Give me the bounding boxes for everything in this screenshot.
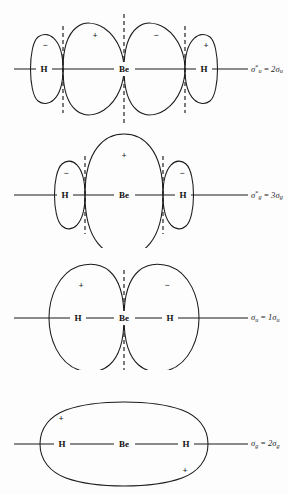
atom-label-h-left: H [61, 190, 68, 200]
orbital-row-sigma-g: H Be H + + σg = 2σg [0, 392, 288, 494]
atom-label-h-right: H [182, 439, 189, 449]
orbital-label-sub: g [255, 442, 258, 449]
orbital-row-sigma-u-star: H Be H − + − + σ*u = 2σu [0, 0, 288, 125]
lobe-sign-2: + [92, 30, 97, 40]
lobe-sign-2: + [182, 465, 187, 475]
orbital-row-sigma-u: H Be H + − σu = 1σu [0, 252, 288, 370]
orbital-label-sub: u [259, 67, 262, 74]
orbital-row-sigma-g-star: H Be H − + − σ*g = 3σg [0, 128, 288, 248]
atom-label-be: Be [119, 439, 129, 449]
lobe-sign-1: + [58, 413, 63, 423]
orbital-label-value: 2σ [271, 64, 280, 74]
orbital-drawing-sigma-g-star: H Be H − + − [0, 128, 288, 248]
atom-label-h-right: H [179, 190, 186, 200]
orbital-label-value-sub: u [280, 67, 283, 74]
orbital-label-value-sub: u [277, 316, 280, 323]
orbital-label-sigma-g-star: σ*g = 3σg [251, 189, 283, 200]
mo-diagram-figure: H Be H − + − + σ*u = 2σu [0, 0, 288, 494]
lobe-left-large [49, 264, 124, 370]
orbital-label-equals: = [261, 438, 266, 448]
atom-label-be: Be [119, 64, 129, 74]
atom-label-h-right: H [200, 64, 207, 74]
lobe-sign-3: − [153, 30, 158, 40]
orbital-label-sub: u [255, 316, 258, 323]
orbital-label-equals: = [264, 64, 269, 74]
orbital-label-value: 1σ [268, 312, 277, 322]
atom-label-h-right: H [166, 313, 173, 323]
orbital-drawing-sigma-u-star: H Be H − + − + [0, 0, 288, 125]
orbital-label-sub: g [259, 193, 262, 200]
atom-label-be: Be [119, 190, 129, 200]
orbital-label-sigma-u: σu = 1σu [251, 312, 280, 323]
atom-label-h-left: H [40, 64, 47, 74]
atom-label-h-left: H [58, 439, 65, 449]
orbital-label-equals: = [264, 190, 269, 200]
orbital-label-sigma-g: σg = 2σg [251, 438, 280, 449]
lobe-sign-2: + [121, 150, 126, 160]
orbital-label-value: 2σ [268, 438, 277, 448]
orbital-drawing-sigma-u: H Be H + − [0, 252, 288, 370]
lobe-sign-3: − [179, 168, 184, 178]
orbital-label-value-sub: g [277, 442, 280, 449]
lobe-sign-2: − [164, 280, 169, 290]
orbital-label-value-sub: g [280, 193, 283, 200]
lobe-right-large [124, 264, 199, 370]
orbital-label-equals: = [261, 312, 266, 322]
atom-label-be: Be [119, 313, 129, 323]
lobe-sign-1: + [78, 280, 83, 290]
orbital-label-sigma-u-star: σ*u = 2σu [251, 63, 283, 74]
lobe-sign-4: + [203, 40, 208, 50]
orbital-label-value: 3σ [271, 190, 280, 200]
lobe-sign-1: − [42, 40, 47, 50]
atom-label-h-left: H [74, 313, 81, 323]
orbital-drawing-sigma-g: H Be H + + [0, 392, 288, 494]
lobe-sign-1: − [63, 168, 68, 178]
